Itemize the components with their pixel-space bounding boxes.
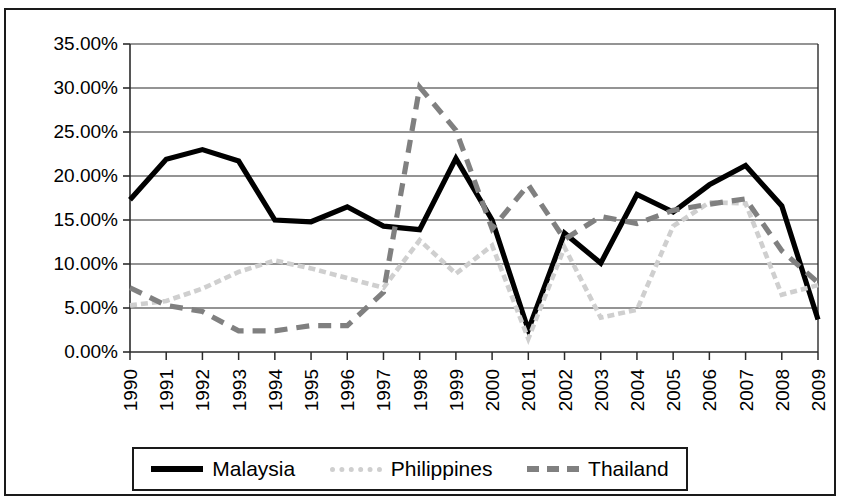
y-axis-tick-label: 0.00%: [64, 341, 118, 362]
legend-item-malaysia[interactable]: Malaysia: [151, 457, 295, 481]
y-axis-tick-label: 25.00%: [54, 121, 119, 142]
x-axis-tick-label: 2001: [518, 369, 539, 411]
legend-swatch-icon: [151, 466, 203, 472]
x-axis-tick-label: 2007: [736, 369, 757, 411]
line-chart-svg: 0.00%5.00%10.00%15.00%20.00%25.00%30.00%…: [0, 0, 841, 504]
x-axis-tick-label: 1994: [265, 369, 286, 412]
x-axis-tick-label: 1998: [410, 369, 431, 411]
legend-item-philippines[interactable]: Philippines: [330, 457, 493, 481]
legend-swatch-icon: [527, 466, 579, 472]
y-axis-tick-label: 15.00%: [54, 209, 119, 230]
x-axis-tick-label: 2002: [555, 369, 576, 411]
chart-figure: 0.00%5.00%10.00%15.00%20.00%25.00%30.00%…: [0, 0, 841, 504]
x-axis-tick-label: 2005: [663, 369, 684, 411]
legend-item-label: Philippines: [391, 457, 493, 481]
x-axis-tick-label: 1990: [120, 369, 141, 411]
x-axis-tick-label: 1997: [373, 369, 394, 411]
legend-item-label: Thailand: [588, 457, 669, 481]
series-line-philippines: [130, 202, 818, 338]
x-axis-tick-label: 1993: [229, 369, 250, 411]
y-axis-tick-label: 10.00%: [54, 253, 119, 274]
x-axis-tick-label: 2006: [699, 369, 720, 411]
x-axis-tick-label: 2000: [482, 369, 503, 411]
series-line-malaysia: [130, 150, 818, 330]
x-axis-tick-label: 1996: [337, 369, 358, 411]
y-axis-tick-label: 35.00%: [54, 33, 119, 54]
chart-legend: MalaysiaPhilippinesThailand: [132, 447, 688, 491]
x-axis-tick-label: 2003: [591, 369, 612, 411]
legend-item-thailand[interactable]: Thailand: [527, 457, 669, 481]
x-axis-tick-label: 1992: [192, 369, 213, 411]
y-axis-tick-label: 5.00%: [64, 297, 118, 318]
legend-item-label: Malaysia: [212, 457, 295, 481]
y-axis-tick-label: 20.00%: [54, 165, 119, 186]
chart-plot-container: 0.00%5.00%10.00%15.00%20.00%25.00%30.00%…: [0, 0, 841, 504]
series-line-thailand: [130, 87, 818, 331]
legend-swatch-icon: [330, 467, 382, 472]
x-axis-tick-label: 2009: [808, 369, 829, 411]
x-axis-tick-label: 1999: [446, 369, 467, 411]
x-axis-tick-label: 2008: [772, 369, 793, 411]
x-axis-tick-label: 1995: [301, 369, 322, 411]
x-axis-tick-label: 1991: [156, 369, 177, 411]
y-axis-tick-label: 30.00%: [54, 77, 119, 98]
x-axis-tick-label: 2004: [627, 369, 648, 412]
